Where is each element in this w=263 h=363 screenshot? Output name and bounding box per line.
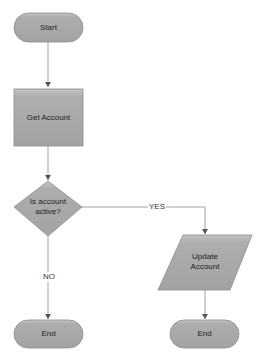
edge-decision-yes	[82, 207, 208, 234]
node-end-no-label: End	[14, 320, 83, 348]
start-text: Start	[40, 23, 57, 33]
edge-yes-label: YES	[148, 202, 166, 212]
get-account-text: Get Account	[27, 113, 71, 123]
arrowhead-icon	[45, 82, 51, 87]
node-get-account-label: Get Account	[14, 89, 83, 146]
arrowhead-icon	[45, 314, 51, 319]
end-yes-text: End	[197, 329, 211, 339]
edge-get-account-to-decision	[45, 146, 51, 180]
edge-no-label: NO	[42, 272, 56, 282]
decision-text-line1: Is account	[30, 197, 66, 207]
end-no-text: End	[41, 329, 55, 339]
edge-start-to-get-account	[45, 42, 51, 87]
node-decision-label: Is account active?	[14, 196, 82, 218]
update-text-line2: Account	[191, 262, 220, 272]
flowchart-canvas	[0, 0, 263, 363]
node-start-label: Start	[14, 13, 83, 42]
arrowhead-icon	[45, 175, 51, 180]
node-end-yes-label: End	[170, 320, 239, 348]
arrowhead-icon	[202, 314, 208, 319]
arrowhead-icon	[202, 229, 208, 234]
edge-update-to-end	[202, 290, 208, 319]
decision-text-line2: active?	[35, 207, 60, 217]
update-text-line1: Update	[192, 252, 218, 262]
node-update-account-label: Update Account	[170, 251, 240, 273]
